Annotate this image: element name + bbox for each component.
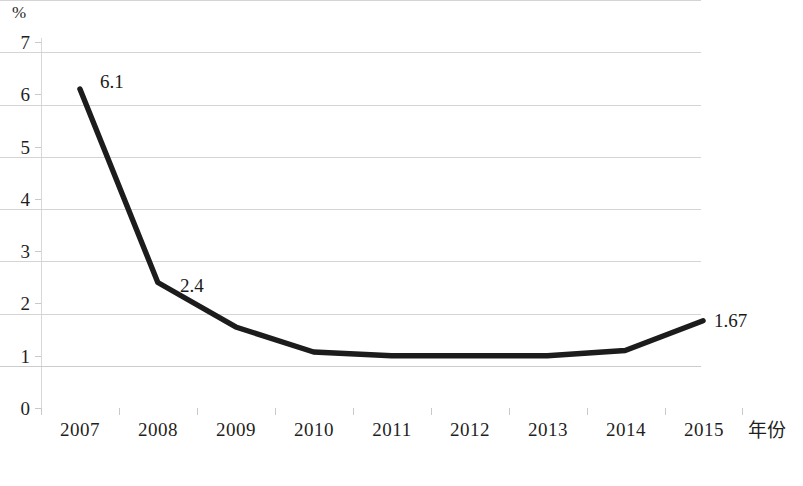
y-tick-4 — [35, 199, 41, 200]
data-label-2015: 1.67 — [714, 311, 747, 330]
gridline-5 — [0, 105, 701, 106]
gridline-2 — [0, 261, 701, 262]
x-tick-8 — [665, 408, 666, 415]
line-chart: % 7 6 5 4 3 2 1 0 2007 2008 2009 2010 20… — [0, 0, 803, 486]
y-tick-label-1: 1 — [0, 347, 30, 366]
y-tick-label-0: 0 — [0, 399, 30, 418]
y-tick-7 — [35, 42, 41, 43]
y-axis-unit-label: % — [12, 4, 26, 21]
x-tick-1 — [119, 408, 120, 415]
gridline-3 — [0, 209, 701, 210]
y-tick-label-5: 5 — [0, 138, 30, 157]
x-tick-6 — [509, 408, 510, 415]
gridline-1 — [0, 314, 701, 315]
x-tick-9 — [742, 408, 743, 415]
y-tick-5 — [35, 147, 41, 148]
x-tick-label-2014: 2014 — [591, 419, 661, 441]
x-tick-label-2012: 2012 — [435, 419, 505, 441]
x-tick-0 — [41, 408, 42, 415]
x-tick-label-2007: 2007 — [45, 419, 115, 441]
y-tick-label-4: 4 — [0, 190, 30, 209]
gridline-7 — [0, 0, 701, 1]
x-axis-line — [0, 366, 701, 367]
x-tick-7 — [587, 408, 588, 415]
y-tick-6 — [35, 94, 41, 95]
y-tick-label-7: 7 — [0, 33, 30, 52]
y-axis-line — [41, 38, 42, 412]
x-tick-label-2009: 2009 — [201, 419, 271, 441]
y-tick-2 — [35, 303, 41, 304]
y-tick-label-2: 2 — [0, 294, 30, 313]
x-tick-label-2011: 2011 — [357, 419, 427, 441]
y-tick-label-6: 6 — [0, 85, 30, 104]
data-label-2008: 2.4 — [180, 276, 204, 295]
y-tick-label-3: 3 — [0, 242, 30, 261]
x-tick-3 — [275, 408, 276, 415]
series-line — [80, 89, 703, 356]
x-tick-5 — [431, 408, 432, 415]
gridline-4 — [0, 157, 701, 158]
x-tick-label-2013: 2013 — [513, 419, 583, 441]
x-tick-label-2010: 2010 — [279, 419, 349, 441]
x-tick-label-2008: 2008 — [123, 419, 193, 441]
x-tick-label-2015: 2015 — [669, 419, 739, 441]
data-label-2007: 6.1 — [100, 72, 124, 91]
x-tick-2 — [197, 408, 198, 415]
y-tick-1 — [35, 356, 41, 357]
x-tick-4 — [353, 408, 354, 415]
y-tick-3 — [35, 251, 41, 252]
gridline-6 — [0, 52, 701, 53]
x-axis-title: 年份 — [748, 419, 786, 441]
